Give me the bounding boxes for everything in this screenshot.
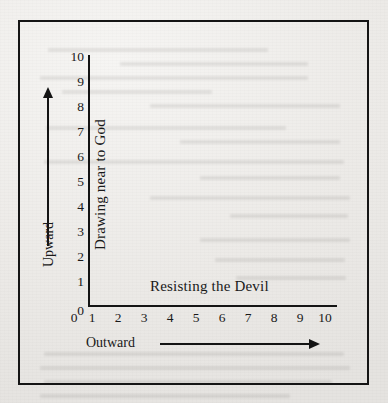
y-tick: 10 bbox=[60, 50, 84, 64]
y-axis-caption: Drawing near to God bbox=[92, 119, 109, 250]
upward-label: Upward bbox=[41, 229, 57, 267]
y-tick: 9 bbox=[60, 75, 84, 89]
x-tick: 10 bbox=[314, 311, 336, 325]
x-tick: 8 bbox=[263, 311, 285, 325]
x-axis-line bbox=[88, 305, 337, 307]
x-axis-caption: Resisting the Devil bbox=[150, 278, 269, 295]
x-tick: 3 bbox=[133, 311, 155, 325]
x-tick: 1 bbox=[81, 311, 103, 325]
x-tick: 4 bbox=[159, 311, 181, 325]
x-tick: 9 bbox=[289, 311, 311, 325]
x-tick: 7 bbox=[237, 311, 259, 325]
x-axis-tick-labels: 0 1 2 3 4 5 6 7 8 9 10 bbox=[0, 311, 388, 331]
y-axis-line bbox=[88, 55, 90, 307]
x-tick: 6 bbox=[211, 311, 233, 325]
arrow-right-icon bbox=[160, 343, 310, 345]
outward-label: Outward bbox=[86, 335, 135, 351]
upward-direction-annotation: Upward bbox=[30, 88, 68, 308]
x-tick: 2 bbox=[107, 311, 129, 325]
scanned-page: 10 9 8 7 6 5 4 3 2 1 0 0 1 2 3 4 5 6 7 8… bbox=[0, 0, 388, 403]
x-tick: 5 bbox=[185, 311, 207, 325]
